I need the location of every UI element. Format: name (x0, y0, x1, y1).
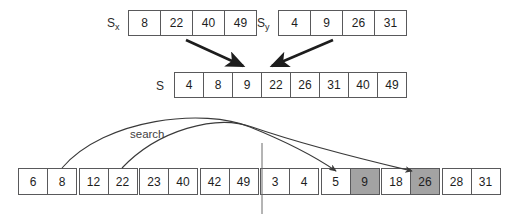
array-sy-cell: 31 (374, 10, 407, 36)
array-sx-cell: 40 (192, 10, 225, 36)
leaf-block: 1222 (79, 168, 138, 195)
array-merged-cell: 49 (377, 72, 407, 98)
leaf-cell: 8 (47, 168, 77, 195)
leaf-cell-highlighted: 9 (350, 168, 380, 195)
leaf-cell: 31 (471, 168, 501, 195)
array-label-sy: Sy (257, 16, 270, 30)
array-merged-cell: 4 (174, 72, 204, 98)
array-sx-cell: 8 (128, 10, 161, 36)
array-sy-cell: 26 (342, 10, 375, 36)
merge-arrow-from-sy (272, 40, 333, 66)
leaf-cell: 6 (18, 168, 48, 195)
array-sx: 8224049 (128, 10, 257, 36)
leaf-cell: 42 (200, 168, 230, 195)
leaf-cell: 5 (321, 168, 351, 195)
leaf-cell: 22 (108, 168, 138, 195)
array-sx-cell: 22 (160, 10, 193, 36)
leaf-cell: 40 (168, 168, 198, 195)
leaf-cell: 12 (79, 168, 109, 195)
leaf-cell-highlighted: 26 (410, 168, 440, 195)
merge-arrow-from-sx (186, 40, 243, 66)
leaf-cell: 3 (260, 168, 290, 195)
array-merged: 4892226314049 (174, 72, 407, 98)
array-merged-cell: 9 (232, 72, 262, 98)
array-merged-cell: 26 (290, 72, 320, 98)
leaf-block: 2340 (139, 168, 198, 195)
array-label-sx: Sx (107, 16, 120, 30)
array-sy: 492631 (278, 10, 407, 36)
leaf-block: 68 (18, 168, 77, 195)
array-sy-cell: 4 (278, 10, 311, 36)
array-label-merged: S (156, 79, 164, 93)
search-label: search (130, 128, 165, 140)
leaf-cell: 4 (289, 168, 319, 195)
array-merged-cell: 22 (261, 72, 291, 98)
leaf-block: 2831 (442, 168, 501, 195)
array-sx-cell: 49 (224, 10, 257, 36)
array-merged-cell: 40 (348, 72, 378, 98)
leaf-cell: 49 (229, 168, 259, 195)
leaf-block: 59 (321, 168, 380, 195)
leaf-block: 4249 (200, 168, 259, 195)
array-merged-cell: 31 (319, 72, 349, 98)
array-label-merged-base: S (156, 79, 164, 93)
array-label-sx-base: S (107, 16, 115, 30)
array-label-sy-subscript: y (265, 22, 270, 32)
leaf-block: 34 (260, 168, 319, 195)
search-arc-left (62, 118, 336, 171)
leaf-cell: 28 (442, 168, 472, 195)
leaf-cell: 18 (381, 168, 411, 195)
array-label-sx-subscript: x (115, 22, 120, 32)
array-sy-cell: 9 (310, 10, 343, 36)
diagram-canvas: Sx 8224049 Sy 492631 S 4892226314049 681… (0, 0, 515, 222)
array-merged-cell: 8 (203, 72, 233, 98)
leaf-cell: 23 (139, 168, 169, 195)
array-label-sy-base: S (257, 16, 265, 30)
search-arc-right (122, 123, 412, 171)
leaf-block: 1826 (381, 168, 440, 195)
